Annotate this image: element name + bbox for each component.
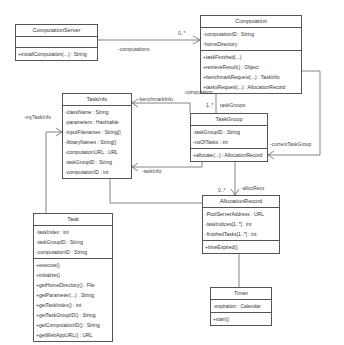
class-computation[interactable]: Computation -computationID : String -hom… xyxy=(200,15,302,94)
taskgroups-multiplicity: 1..* xyxy=(206,102,214,108)
attribute: -taskGroupID : String xyxy=(36,237,112,247)
my-taskinfo-role: -myTaskInfo xyxy=(24,114,51,120)
attribute: -homeDirectory xyxy=(203,39,301,49)
attribute: -taskGroupID : String xyxy=(65,157,131,167)
attributes-section: -PoolServerAddress : URL -taskIndices[1.… xyxy=(203,208,279,241)
method: +taskFinished(...) xyxy=(203,52,301,62)
computation-role: -computation xyxy=(184,89,213,95)
attribute: -computationID : int xyxy=(65,167,131,177)
attributes-section xyxy=(16,37,97,48)
attribute: -className : String xyxy=(65,107,131,117)
method: +initialize() xyxy=(36,270,112,280)
attributes-section: -computationID : String -homeDirectory xyxy=(201,28,301,51)
class-task[interactable]: Task -taskIndex : int -taskGroupID : Str… xyxy=(33,213,113,342)
attribute: -inputFilenames : String[] xyxy=(65,127,131,137)
attribute: -expiration : Calendar xyxy=(213,301,271,311)
class-timer[interactable]: Timer -expiration : Calendar +start() xyxy=(210,287,272,326)
attribute: -taskIndices[1..*] : int xyxy=(205,219,279,229)
computations-role: -computations xyxy=(118,46,149,52)
class-title: Computation xyxy=(201,16,301,28)
methods-section: +timeExpired() xyxy=(203,241,279,253)
method: +retrieveResult() : Object xyxy=(203,62,301,72)
methods-section: +execute() +initialize() +getHomeDirecto… xyxy=(34,259,112,341)
attributes-section: -taskGroupID : String -noOfTasks : int xyxy=(191,126,267,149)
methods-section: +allocate(...) : AllocationRecord xyxy=(191,149,267,161)
attribute: -libraryNames : String[] xyxy=(65,137,131,147)
method: +benchmarkRequest(...) : TaskInfo xyxy=(203,72,301,82)
class-title: Task xyxy=(34,214,112,226)
attribute: -parameters : Hashtable xyxy=(65,117,131,127)
taskgroups-role: taskGroups xyxy=(220,102,246,108)
attribute: -computationURL : URL xyxy=(65,147,131,157)
attributes-section: -className : String -parameters : Hashta… xyxy=(63,106,131,178)
benchmark-info-line xyxy=(132,103,190,113)
class-title: TaskInfo xyxy=(63,94,131,106)
method: +getTaskIndex() : int xyxy=(36,300,112,310)
method: +timeExpired() xyxy=(205,242,279,252)
attribute: -computationID : String xyxy=(36,247,112,257)
attributes-section: -expiration : Calendar xyxy=(211,300,271,313)
class-title: Timer xyxy=(211,288,271,300)
attribute: -PoolServerAddress : URL xyxy=(205,209,279,219)
method: +getComputationID() : String xyxy=(36,320,112,330)
class-allocation-record[interactable]: AllocationRecord -PoolServerAddress : UR… xyxy=(202,195,280,254)
methods-section: +taskFinished(...) +retrieveResult() : O… xyxy=(201,51,301,93)
attribute: -noOfTasks : int xyxy=(193,137,267,147)
method: +getParameter(...) : String xyxy=(36,290,112,300)
method: +execute() xyxy=(36,260,112,270)
method: +getTaskGroupID() : String xyxy=(36,310,112,320)
attribute: -finishedTasks[1..*] : int xyxy=(205,229,279,239)
class-task-info[interactable]: TaskInfo -className : String -parameters… xyxy=(62,93,132,179)
attribute: -taskIndex : int xyxy=(36,227,112,237)
computations-multiplicity: 0..* xyxy=(178,30,186,36)
methods-section: +start() xyxy=(211,313,271,325)
class-title: AllocationRecord xyxy=(203,196,279,208)
class-task-group[interactable]: TaskGroup -taskGroupID : String -noOfTas… xyxy=(190,113,268,162)
method: +start() xyxy=(213,314,271,324)
alloc-recs-multiplicity: 0..* xyxy=(218,187,226,193)
taskinfo-role: -taskInfo xyxy=(142,168,161,174)
class-title: ComputationServer xyxy=(16,25,97,37)
benchmark-info-role: -benchmarkInfo xyxy=(138,96,173,102)
attribute: -computationID : String xyxy=(203,29,301,39)
attribute: -taskGroupID : String xyxy=(193,127,267,137)
method: +installComputation(...) : String xyxy=(18,49,97,59)
method: +getWebAppURL() : URL xyxy=(36,330,112,340)
current-taskgroup-role: -currentTaskGroup xyxy=(270,141,311,147)
method: +tasksRequest(...) : AllocationRecord xyxy=(203,82,301,92)
attributes-section: -taskIndex : int -taskGroupID : String -… xyxy=(34,226,112,259)
method: +getHomeDirectory() : File xyxy=(36,280,112,290)
method: +allocate(...) : AllocationRecord xyxy=(193,150,267,160)
class-computation-server[interactable]: ComputationServer +installComputation(..… xyxy=(15,24,98,61)
alloc-recs-role: -allocRecs xyxy=(241,185,264,191)
class-title: TaskGroup xyxy=(191,114,267,126)
methods-section: +installComputation(...) : String xyxy=(16,48,97,60)
